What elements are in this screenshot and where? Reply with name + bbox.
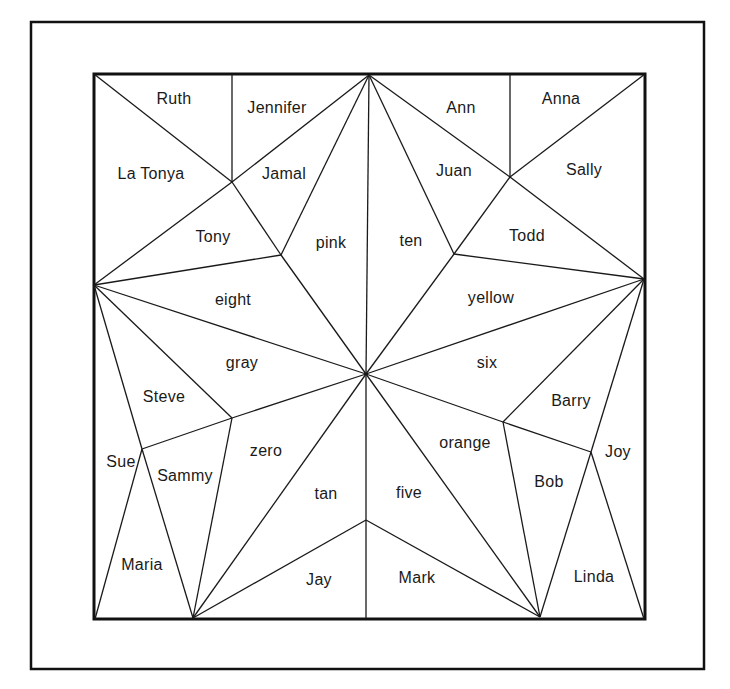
edge-line <box>232 374 366 418</box>
edge-line <box>591 279 644 452</box>
region-label-jamal: Jamal <box>262 165 306 183</box>
region-label-orange: orange <box>439 434 491 452</box>
region-label-zero: zero <box>250 442 282 460</box>
region-label-anna: Anna <box>542 90 581 108</box>
star-edges <box>94 74 645 619</box>
edge-line <box>142 418 232 449</box>
edge-line <box>232 182 281 255</box>
edge-line <box>193 520 366 618</box>
edge-line <box>94 255 281 285</box>
region-label-barry: Barry <box>551 392 591 410</box>
edge-line <box>193 374 366 618</box>
region-label-steve: Steve <box>143 388 185 406</box>
edge-line <box>366 254 454 374</box>
region-label-tan: tan <box>314 485 337 503</box>
region-label-tony: Tony <box>196 228 231 246</box>
edge-line <box>366 374 503 422</box>
region-label-ten: ten <box>399 232 422 250</box>
region-label-ruth: Ruth <box>157 90 192 108</box>
edge-line <box>591 452 644 619</box>
region-label-maria: Maria <box>121 556 163 574</box>
region-label-sammy: Sammy <box>157 467 213 485</box>
region-label-pink: pink <box>316 234 347 252</box>
region-label-juan: Juan <box>436 162 472 180</box>
region-label-joy: Joy <box>605 443 631 461</box>
region-label-gray: gray <box>226 354 258 372</box>
region-label-six: six <box>477 354 497 372</box>
edge-line <box>281 255 366 374</box>
region-label-mark: Mark <box>399 569 436 587</box>
region-label-five: five <box>396 484 422 502</box>
edge-line <box>454 177 510 254</box>
edge-line <box>503 422 591 452</box>
region-label-eight: eight <box>215 291 251 309</box>
region-label-sally: Sally <box>566 161 602 179</box>
region-label-linda: Linda <box>574 568 615 586</box>
inner-square <box>94 74 645 619</box>
region-label-yellow: yellow <box>468 289 514 307</box>
edge-line <box>366 520 540 617</box>
star-diagram <box>0 0 730 689</box>
region-label-sue: Sue <box>106 453 135 471</box>
edge-line <box>95 449 142 619</box>
region-label-jay: Jay <box>306 571 332 589</box>
region-label-ann: Ann <box>446 99 475 117</box>
edge-line <box>366 75 369 374</box>
edge-line <box>94 285 142 449</box>
edge-line <box>193 418 232 618</box>
edge-line <box>503 422 540 617</box>
region-label-bob: Bob <box>534 473 563 491</box>
region-label-jennifer: Jennifer <box>247 99 306 117</box>
region-label-la-tonya: La Tonya <box>117 165 184 183</box>
region-label-todd: Todd <box>509 227 545 245</box>
